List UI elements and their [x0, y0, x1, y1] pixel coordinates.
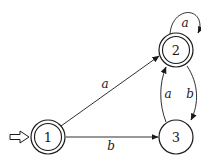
edge-label: b [107, 139, 115, 153]
edge-label: a [181, 16, 188, 30]
transition-1-to-2: a [61, 56, 159, 126]
edge-label: a [101, 77, 108, 91]
start-arrow-icon [10, 131, 29, 143]
state-label: 3 [172, 130, 180, 145]
state-label: 2 [172, 43, 180, 58]
transition-1-to-3: b [66, 137, 158, 153]
state-1: 1 [31, 120, 65, 154]
state-2: 2 [159, 33, 193, 67]
edge-label: a [164, 87, 171, 101]
edge-label: b [186, 87, 194, 101]
transition-2-to-2: a [170, 13, 200, 34]
edge-line [61, 56, 159, 126]
state-label: 1 [44, 130, 52, 145]
transition-2-to-3: b [186, 66, 196, 120]
state-3: 3 [159, 120, 193, 154]
transition-3-to-2: a [161, 67, 172, 122]
finite-automaton-diagram: a b a b a 1 2 3 [0, 0, 201, 165]
